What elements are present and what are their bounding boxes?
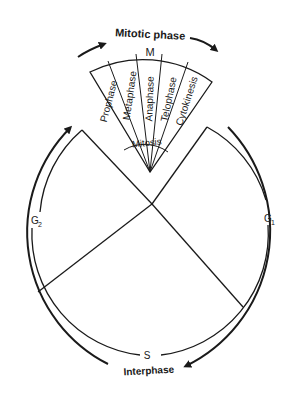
interphase-label: Interphase xyxy=(123,364,175,378)
interphase-arrow-right xyxy=(186,127,270,366)
g1-subscript: 1 xyxy=(271,219,275,226)
inner-arc-g1-lower xyxy=(161,225,268,355)
mitotic-arrow-left xyxy=(78,44,104,57)
stage-anaphase: Anaphase xyxy=(143,76,156,122)
mitotic-phase-label: Mitotic phase xyxy=(115,26,186,42)
inner-arc-g2-lower xyxy=(32,228,140,355)
mitotic-arrow-right xyxy=(190,38,216,50)
g2-subscript: 2 xyxy=(38,221,42,228)
s-label: S xyxy=(144,350,151,361)
interphase-arrow-left xyxy=(27,128,108,364)
divider-g1-s xyxy=(152,204,243,307)
g2-label: G 2 xyxy=(31,215,42,228)
divider-g2-s xyxy=(38,204,152,292)
m-label: M xyxy=(145,46,154,58)
inner-arc-g2-upper xyxy=(40,130,82,212)
cell-cycle-diagram: Mitotic phase M Prophase Metaphase Anaph… xyxy=(0,0,296,399)
